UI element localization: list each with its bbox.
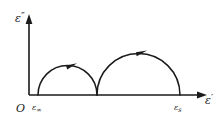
cole-cole-plot-canvas: ε″ ε′ O ε∞ εs	[0, 0, 222, 122]
relaxation-arc-1	[38, 66, 97, 95]
eps-static-subscript: s	[178, 106, 182, 114]
y-axis-arrowhead-icon	[26, 14, 33, 24]
origin-label: O	[16, 102, 25, 115]
y-axis-label: ε″	[15, 10, 25, 25]
x-axis-label: ε′	[205, 92, 214, 107]
cole-cole-figure: ε″ ε′ O ε∞ εs	[0, 0, 222, 122]
relaxation-arc-1-group	[38, 63, 97, 95]
x-axis-label-prime: ′	[211, 92, 214, 103]
y-axis-group	[26, 14, 33, 95]
y-axis-label-prime: ″	[21, 10, 25, 21]
relaxation-arc-2	[97, 53, 180, 95]
eps-infinity-label: ε∞	[32, 103, 42, 114]
relaxation-arc-2-group	[97, 51, 180, 95]
eps-static-label: εs	[174, 103, 182, 114]
eps-infinity-subscript: ∞	[36, 106, 41, 114]
